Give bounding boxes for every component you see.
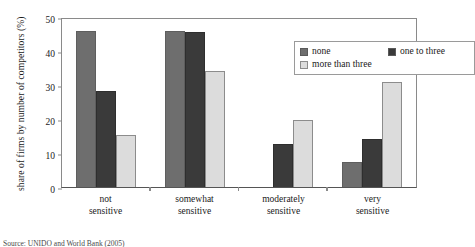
bar-none xyxy=(76,31,96,187)
x-label-line2: sensitive xyxy=(239,205,328,217)
bar-more-than-three xyxy=(205,71,225,187)
bar-group-not-sensitive xyxy=(62,19,151,187)
legend-label: one to three xyxy=(400,45,445,58)
x-label-line2: sensitive xyxy=(150,205,239,217)
y-tick-20: 20 xyxy=(46,116,63,127)
y-tick-10: 10 xyxy=(46,150,63,161)
legend-swatch-one-to-three-icon xyxy=(388,48,396,56)
y-tick-mark xyxy=(58,188,62,189)
bar-none xyxy=(342,162,362,188)
y-tick-50: 50 xyxy=(46,14,63,25)
x-label-line1: very xyxy=(364,194,381,204)
x-label-line1: somewhat xyxy=(175,194,214,204)
legend-swatch-more-than-three-icon xyxy=(300,61,308,69)
y-tick-label: 20 xyxy=(46,116,59,126)
x-label-line2: sensitive xyxy=(61,205,150,217)
bar-one-to-three xyxy=(362,139,382,187)
x-axis-labels: not sensitive somewhat sensitive moderat… xyxy=(61,193,417,217)
y-tick-40: 40 xyxy=(46,48,63,59)
x-label-not-sensitive: not sensitive xyxy=(61,193,150,217)
bar-more-than-three xyxy=(382,82,402,187)
bar-none xyxy=(165,31,185,187)
x-label-somewhat-sensitive: somewhat sensitive xyxy=(150,193,239,217)
y-tick-label: 30 xyxy=(46,82,59,92)
legend-label: none xyxy=(312,45,330,58)
x-label-line2: sensitive xyxy=(328,205,417,217)
y-tick-label: 40 xyxy=(46,48,59,58)
figure-caption: Source: UNIDO and World Bank (2005) xyxy=(3,239,125,247)
x-label-line1: moderately xyxy=(262,194,305,204)
bar-group-somewhat-sensitive xyxy=(151,19,240,187)
x-tick-mark xyxy=(326,187,327,191)
x-tick-mark xyxy=(238,187,239,191)
x-label-moderately-sensitive: moderately sensitive xyxy=(239,193,328,217)
bar-more-than-three xyxy=(116,135,136,187)
y-tick-label: 50 xyxy=(46,14,59,24)
bar-one-to-three xyxy=(273,144,293,187)
bar-more-than-three xyxy=(293,120,313,187)
bar-one-to-three xyxy=(185,32,205,187)
plot-area: 0 10 20 30 40 50 xyxy=(61,18,417,188)
legend-item-none: none xyxy=(300,45,388,58)
legend-label: more than three xyxy=(312,58,372,71)
y-tick-30: 30 xyxy=(46,82,63,93)
x-label-line1: not xyxy=(99,194,111,204)
chart-legend: none one to three more than three xyxy=(294,41,475,75)
x-tick-mark xyxy=(149,187,150,191)
legend-item-one-to-three: one to three xyxy=(388,45,445,58)
bar-one-to-three xyxy=(96,91,116,187)
y-tick-label: 10 xyxy=(46,150,59,160)
legend-swatch-none-icon xyxy=(300,48,308,56)
legend-row-2: more than three xyxy=(300,58,469,71)
x-label-very-sensitive: very sensitive xyxy=(328,193,417,217)
legend-row-1: none one to three xyxy=(300,45,469,58)
legend-item-more-than-three: more than three xyxy=(300,58,388,71)
y-axis-title: share of firms by number of competitors … xyxy=(16,14,28,194)
y-tick-label: 0 xyxy=(50,184,58,194)
